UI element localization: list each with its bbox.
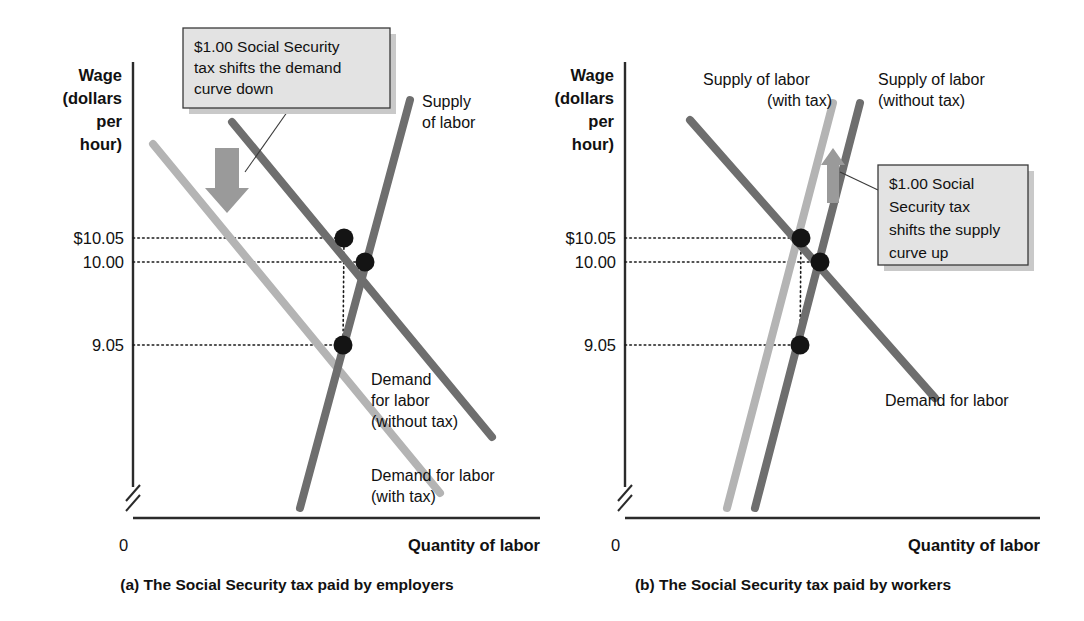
panel-b-y-axis-title-line-1: Wage bbox=[571, 66, 614, 84]
panel-b-y-axis-title-line-4: hour) bbox=[572, 135, 614, 153]
panel-a-y-axis-title-line-4: hour) bbox=[80, 135, 122, 153]
panel-a: $1.00 Social Security tax shifts the dem… bbox=[62, 28, 540, 593]
panel-a-x-axis-title: Quantity of labor bbox=[408, 536, 541, 554]
panel-a-origin-label: 0 bbox=[119, 536, 128, 554]
panel-b-callout-line-4: curve up bbox=[889, 244, 948, 261]
panel-a-callout-line-3: curve down bbox=[194, 80, 273, 97]
panel-b-callout-line-1: $1.00 Social bbox=[889, 175, 974, 192]
panel-b-callout-leader bbox=[840, 172, 878, 190]
panel-b-supply-without-tax-label-line-1: Supply of labor bbox=[878, 71, 985, 88]
panel-b-point-905 bbox=[791, 336, 810, 355]
panel-a-y-axis-title-line-2: (dollars bbox=[62, 89, 122, 107]
panel-b-supply-without-tax-curve bbox=[755, 103, 860, 508]
panel-b-callout-line-2: Security tax bbox=[889, 198, 970, 215]
panel-a-caption: (a) The Social Security tax paid by empl… bbox=[120, 576, 453, 593]
panel-b-supply-with-tax-label-line-1: Supply of labor bbox=[703, 71, 810, 88]
panel-b-point-1005 bbox=[792, 229, 811, 248]
panel-a-supply-label-line-1: Supply bbox=[422, 93, 471, 110]
panel-a-y-axis-title-line-3: per bbox=[96, 112, 122, 130]
figure-root: $1.00 Social Security tax shifts the dem… bbox=[0, 0, 1084, 621]
panel-b-x-axis-title: Quantity of labor bbox=[908, 536, 1041, 554]
panel-a-demand-without-tax-label-line-1: Demand bbox=[371, 371, 431, 388]
panel-b-y-axis-title-line-3: per bbox=[588, 112, 614, 130]
panel-b-supply-with-tax-label-line-2: (with tax) bbox=[767, 92, 832, 109]
economics-figure: $1.00 Social Security tax shifts the dem… bbox=[0, 0, 1084, 621]
panel-a-demand-without-tax-label-line-3: (without tax) bbox=[371, 413, 458, 430]
panel-a-callout-line-2: tax shifts the demand bbox=[194, 59, 341, 76]
panel-b-demand-label: Demand for labor bbox=[885, 392, 1009, 409]
panel-b-supply-with-tax-curve bbox=[727, 103, 833, 508]
panel-a-supply-label-line-2: of labor bbox=[422, 114, 476, 131]
panel-b-origin-label: 0 bbox=[611, 536, 620, 554]
panel-a-demand-without-tax-label-line-2: for labor bbox=[371, 392, 430, 409]
panel-b-tick-label-1005: $10.05 bbox=[566, 229, 616, 247]
panel-a-demand-with-tax-label-line-2: (with tax) bbox=[371, 488, 436, 505]
panel-a-tick-label-1005: $10.05 bbox=[74, 229, 124, 247]
panel-b-tick-label-1000: 10.00 bbox=[575, 253, 616, 271]
panel-b-point-1000 bbox=[811, 253, 830, 272]
panel-a-callout-line-1: $1.00 Social Security bbox=[194, 38, 340, 55]
panel-b-supply-without-tax-label-line-2: (without tax) bbox=[878, 92, 965, 109]
panel-b-tick-label-905: 9.05 bbox=[584, 336, 616, 354]
panel-a-point-1005 bbox=[335, 229, 354, 248]
panel-a-y-axis-title-line-1: Wage bbox=[79, 66, 122, 84]
panel-a-demand-with-tax-label-line-1: Demand for labor bbox=[371, 467, 495, 484]
panel-a-point-905 bbox=[334, 336, 353, 355]
panel-a-supply-curve bbox=[300, 100, 410, 508]
panel-a-point-1000 bbox=[356, 253, 375, 272]
panel-b-y-axis-title-line-2: (dollars bbox=[554, 89, 614, 107]
panel-b: $1.00 Social Security tax shifts the sup… bbox=[554, 62, 1040, 593]
panel-a-tick-label-1000: 10.00 bbox=[83, 253, 124, 271]
panel-b-caption: (b) The Social Security tax paid by work… bbox=[635, 576, 951, 593]
panel-b-callout-line-3: shifts the supply bbox=[889, 221, 1000, 238]
panel-a-shift-arrow-icon bbox=[205, 148, 249, 213]
panel-a-tick-label-905: 9.05 bbox=[92, 336, 124, 354]
